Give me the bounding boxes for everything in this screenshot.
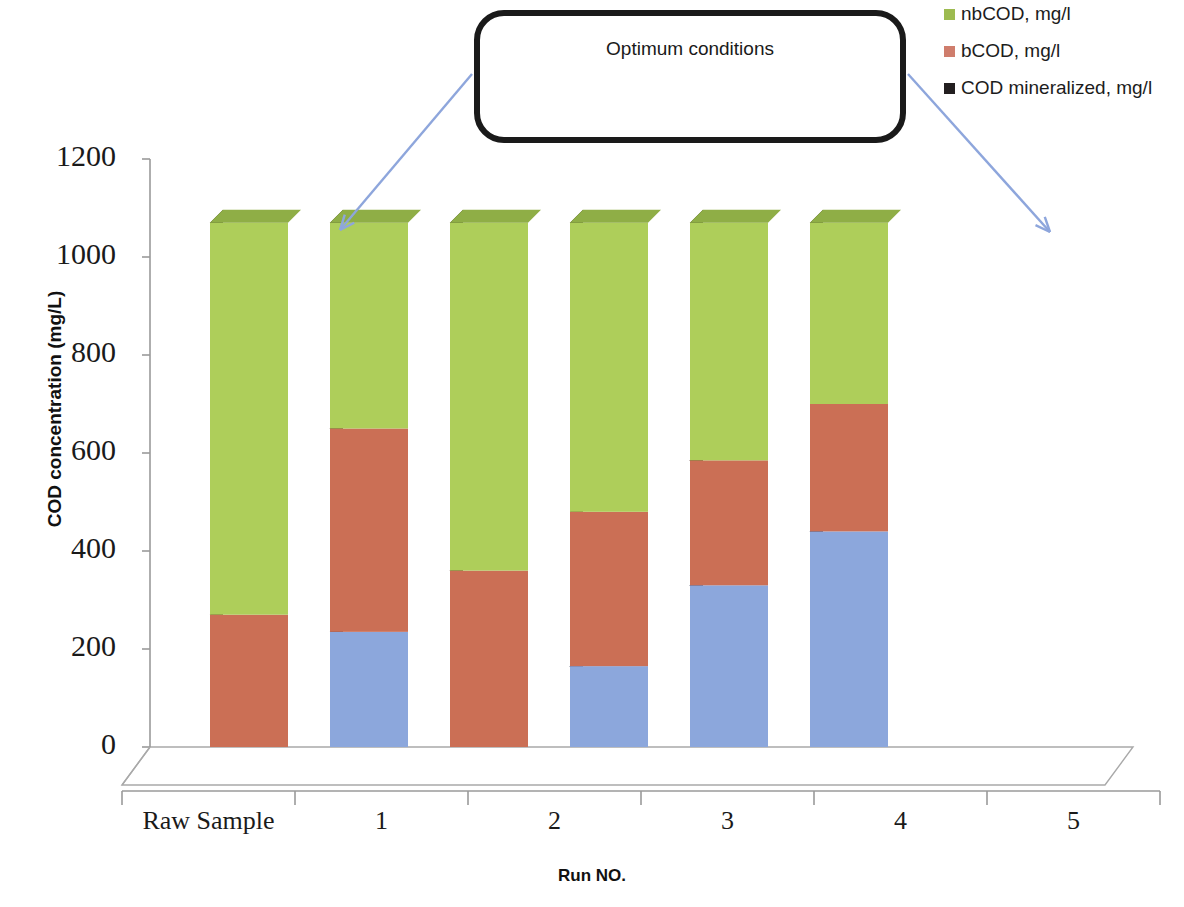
- bar-column[interactable]: [810, 210, 901, 747]
- bar-column[interactable]: [330, 210, 421, 747]
- bar-segment[interactable]: [450, 558, 528, 747]
- bar-segment[interactable]: [690, 572, 768, 747]
- bar-segment[interactable]: [810, 391, 888, 531]
- callout-arrow-left: [340, 74, 472, 230]
- bar-top-face: [690, 210, 781, 223]
- plot-area: [0, 0, 1184, 907]
- bar-top-face: [210, 210, 301, 223]
- chart-container: nbCOD, mg/l bCOD, mg/l COD mineralized, …: [0, 0, 1184, 907]
- bar-segment[interactable]: [570, 210, 648, 512]
- bar-segment[interactable]: [690, 210, 768, 461]
- bar-segment[interactable]: [210, 210, 288, 615]
- bar-top-face: [570, 210, 661, 223]
- bar-segment[interactable]: [330, 416, 408, 632]
- bar-segment[interactable]: [450, 210, 528, 571]
- bar-column[interactable]: [690, 210, 781, 747]
- bar-top-face: [810, 210, 901, 223]
- bar-segment[interactable]: [570, 653, 648, 747]
- bar-segment[interactable]: [690, 447, 768, 585]
- bar-top-face: [450, 210, 541, 223]
- callout-arrow-right: [908, 74, 1050, 232]
- bar-segment[interactable]: [210, 602, 288, 747]
- bar-segment[interactable]: [330, 210, 408, 429]
- bar-segment[interactable]: [810, 210, 888, 404]
- bar-column[interactable]: [210, 210, 301, 747]
- bar-segment[interactable]: [330, 619, 408, 747]
- bar-segment[interactable]: [810, 518, 888, 747]
- bar-column[interactable]: [450, 210, 541, 747]
- bar-segment[interactable]: [570, 499, 648, 666]
- bar-column[interactable]: [570, 210, 661, 747]
